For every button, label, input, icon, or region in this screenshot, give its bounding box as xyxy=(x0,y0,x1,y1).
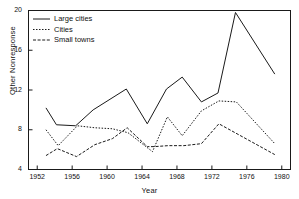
x-axis-ticks xyxy=(37,166,282,170)
y-tick-label: 20 xyxy=(0,6,22,13)
y-tick-label: 4 xyxy=(0,165,22,172)
x-tick-label: 1964 xyxy=(125,173,159,180)
series-line-cities xyxy=(46,101,275,152)
x-axis-title: Year xyxy=(0,186,299,195)
x-tick-label: 1976 xyxy=(230,173,264,180)
legend-label-cities: Cities xyxy=(54,25,73,34)
chart-plot-area xyxy=(0,0,299,199)
y-tick-label: 16 xyxy=(0,46,22,53)
series-line-large-cities xyxy=(46,12,275,125)
x-tick-label: 1980 xyxy=(265,173,299,180)
x-tick-label: 1972 xyxy=(195,173,229,180)
x-tick-label: 1960 xyxy=(90,173,124,180)
y-tick-label: 8 xyxy=(0,125,22,132)
legend-label-small-towns: Small towns xyxy=(54,35,94,44)
x-tick-label: 1952 xyxy=(20,173,54,180)
legend-label-large-cities: Large cities xyxy=(54,14,92,23)
legend-sample-lines xyxy=(33,19,50,40)
y-tick-label: 12 xyxy=(0,86,22,93)
x-tick-label: 1956 xyxy=(55,173,89,180)
chart-figure: Other Nonresponse Year 48121620 19521956… xyxy=(0,0,299,199)
y-axis-ticks xyxy=(29,11,33,170)
x-tick-label: 1968 xyxy=(160,173,194,180)
series-line-small-towns xyxy=(46,124,275,157)
